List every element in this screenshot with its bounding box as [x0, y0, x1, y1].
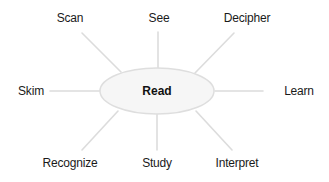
node-label-recognize: Recognize: [43, 157, 98, 169]
spoke-scan: [82, 33, 121, 72]
node-label-skim: Skim: [18, 85, 44, 97]
node-label-learn: Learn: [284, 85, 314, 97]
spoke-recognize: [82, 111, 118, 150]
node-label-interpret: Interpret: [216, 157, 259, 169]
reading-mind-map: Read Scan See Decipher Skim Learn Recogn…: [0, 0, 329, 182]
spoke-decipher: [195, 33, 234, 73]
node-label-study: Study: [142, 157, 172, 169]
node-label-see: See: [149, 12, 170, 24]
node-label-scan: Scan: [57, 12, 84, 24]
node-label-decipher: Decipher: [224, 12, 270, 24]
spoke-interpret: [196, 111, 232, 150]
center-label: Read: [142, 85, 171, 97]
